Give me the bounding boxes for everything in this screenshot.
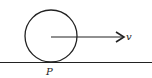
contact-point-label: P xyxy=(45,66,53,77)
velocity-label: v xyxy=(126,31,132,42)
wheel-circle xyxy=(25,10,77,62)
rolling-wheel-diagram: v P xyxy=(0,0,152,78)
